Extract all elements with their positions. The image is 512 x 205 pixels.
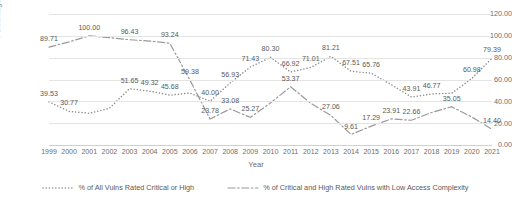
data-label: 40.00 (201, 90, 219, 97)
data-label: 59.38 (181, 69, 199, 76)
x-axis-tick-label: 1999 (41, 148, 57, 155)
data-label: 96.43 (121, 29, 139, 36)
data-label: 39.53 (40, 91, 58, 98)
x-axis-tick-label: 2000 (61, 148, 77, 155)
gridline (49, 14, 492, 15)
x-axis-tick-label: 2007 (202, 148, 218, 155)
x-axis-tick-label: 2003 (122, 148, 138, 155)
data-label: 9.61 (344, 124, 358, 131)
chart-legend: % of All Vulns Rated Critical or High% o… (0, 183, 512, 192)
data-label: 56.93 (221, 72, 239, 79)
x-axis-tick-label: 2013 (323, 148, 339, 155)
data-label: 30.77 (60, 100, 78, 107)
legend-label: % of Critical and High Rated Vulns with … (263, 183, 468, 192)
legend-label: % of All Vulns Rated Critical or High (78, 183, 194, 192)
data-label: 22.66 (403, 109, 421, 116)
x-axis-tick-label: 2002 (102, 148, 118, 155)
data-label: 35.05 (443, 96, 461, 103)
data-label: 60.98 (463, 67, 481, 74)
x-axis-tick-label: 2017 (404, 148, 420, 155)
data-label: 46.77 (423, 83, 441, 90)
legend-swatch-dotted-icon (43, 185, 73, 191)
legend-item-1[interactable]: % of Critical and High Rated Vulns with … (228, 183, 468, 192)
data-label: 43.91 (403, 86, 421, 93)
x-axis-tick-label: 2019 (444, 148, 460, 155)
data-label: 49.32 (141, 80, 159, 87)
data-label: 100.00 (78, 25, 100, 32)
gridline (49, 58, 492, 59)
x-axis-tick-label: 2020 (464, 148, 480, 155)
x-axis-tick-label: 2010 (263, 148, 279, 155)
legend-swatch-dash-dot-icon (228, 185, 258, 191)
data-label: 79.39 (483, 47, 501, 54)
x-axis-tick-label: 2016 (384, 148, 400, 155)
x-axis-tick-label: 2018 (424, 148, 440, 155)
x-axis-tick-label: 2014 (343, 148, 359, 155)
x-axis-tick-label: 2001 (81, 148, 97, 155)
gridline (49, 101, 492, 102)
gridline (49, 123, 492, 124)
data-label: 89.71 (40, 36, 58, 43)
x-axis-title: Year (0, 160, 512, 169)
data-label: 71.43 (241, 56, 259, 63)
legend-item-0[interactable]: % of All Vulns Rated Critical or High (43, 183, 194, 192)
data-label: 66.92 (282, 61, 300, 68)
data-label: 27.06 (322, 104, 340, 111)
data-label: 33.08 (221, 98, 239, 105)
x-axis-tick-label: 2008 (222, 148, 238, 155)
data-label: 51.65 (121, 78, 139, 85)
gridline (49, 36, 492, 37)
plot-area (49, 14, 492, 145)
x-axis-tick-label: 2015 (363, 148, 379, 155)
data-label: 81.21 (322, 45, 340, 52)
data-label: 23.78 (201, 108, 219, 115)
data-label: 67.51 (342, 60, 360, 67)
x-axis-line (49, 145, 492, 146)
data-label: 14.40 (483, 118, 501, 125)
x-axis-tick-label: 2012 (303, 148, 319, 155)
x-axis-tick-label: 2005 (162, 148, 178, 155)
x-axis-tick-label: 2011 (283, 148, 298, 155)
x-axis-tick-label: 2021 (484, 148, 500, 155)
data-label: 53.37 (282, 76, 300, 83)
x-axis-tick-label: 2004 (142, 148, 158, 155)
data-label: 25.27 (241, 106, 259, 113)
data-label: 80.30 (262, 46, 280, 53)
data-label: 17.29 (362, 115, 380, 122)
x-axis-tick-label: 2009 (243, 148, 259, 155)
data-label: 65.76 (362, 62, 380, 69)
gridline (49, 80, 492, 81)
data-label: 93.24 (161, 32, 179, 39)
y-axis-title: Percentage of Total (0, 0, 2, 38)
x-axis-tick-label: 2006 (182, 148, 198, 155)
data-label: 45.68 (161, 84, 179, 91)
data-label: 23.91 (382, 108, 400, 115)
data-label: 71.01 (302, 56, 320, 63)
chart-container: Percentage of Total 0.0020.0040.0060.008… (0, 0, 512, 205)
